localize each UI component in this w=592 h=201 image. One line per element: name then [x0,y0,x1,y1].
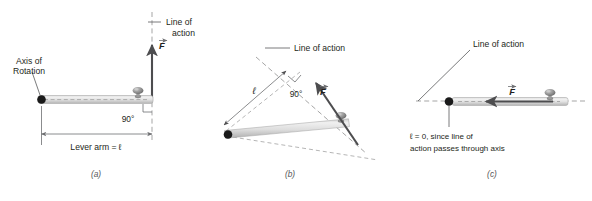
panel-letter-a: (a) [91,169,101,179]
force-vector-label-b: F [320,86,328,97]
line-of-action-dashed-b [256,57,367,154]
lever-arm-label-a: Lever arm = ℓ [70,142,121,152]
right-angle-mark-a [143,104,152,112]
force-vector-letter-c: F [509,86,515,97]
line-of-action-label-b: Line of action [294,43,345,53]
lever-bar-b [225,119,350,139]
line-of-action-label-c: Line of action [473,39,524,49]
right-angle-label-b: 90° [290,89,303,99]
lever-arm-symbol-b: ℓ [251,85,256,96]
force-vector-label-c: F [508,86,516,97]
torque-figure: Axis of Rotation Line of action F 90° Le… [0,0,592,201]
line-of-action-leader-c [418,50,470,101]
panel-a: Axis of Rotation Line of action F 90° Le… [13,12,195,179]
lever-arm-arrow-b [224,71,286,125]
line-of-action-label-a-line1: Line of [166,17,192,27]
axis-of-rotation-label-line2: Rotation [13,66,45,76]
axis-of-rotation-dot-a [37,95,46,104]
force-vector-letter-a: F [159,40,165,51]
panel-b: Line of action ℓ 90° F (b) [224,43,378,179]
axis-of-rotation-dot-b [224,130,233,139]
axis-of-rotation-dot-c [445,97,454,106]
lever-construction-dashed-b [226,72,300,131]
force-vector-label-a: F [159,40,167,51]
force-vector-letter-b: F [320,86,326,97]
lever-arm-note-c-line1: ℓ = 0, since line of [409,132,474,141]
figure-canvas: Axis of Rotation Line of action F 90° Le… [0,0,592,201]
lever-arm-note-c-line2: action passes through axis [410,144,505,153]
panel-letter-b: (b) [285,169,295,179]
panel-c: Line of action F ℓ = 0, since line of ac… [409,39,588,179]
axis-of-rotation-label-line1: Axis of [16,56,42,66]
panel-letter-c: (c) [487,169,497,179]
line-of-action-label-a-line2: action [172,28,195,38]
right-angle-label-a: 90° [122,114,135,124]
